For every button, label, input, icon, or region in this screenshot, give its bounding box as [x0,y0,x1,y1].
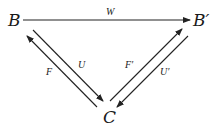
node-B-prime: B′ [192,10,209,30]
label-U-prime: U′ [160,66,170,77]
commutative-diagram: B B′ C W U F F′ U′ [0,0,219,129]
node-B: B [7,10,21,30]
arrow-F-prime [110,29,182,101]
node-C: C [103,107,116,127]
label-F-prime: F′ [124,59,134,70]
arrow-F [27,36,97,107]
label-U: U [78,59,86,70]
arrow-U-prime [117,36,188,107]
arrow-U [33,30,103,101]
label-F: F [45,66,53,77]
label-W: W [106,6,116,17]
